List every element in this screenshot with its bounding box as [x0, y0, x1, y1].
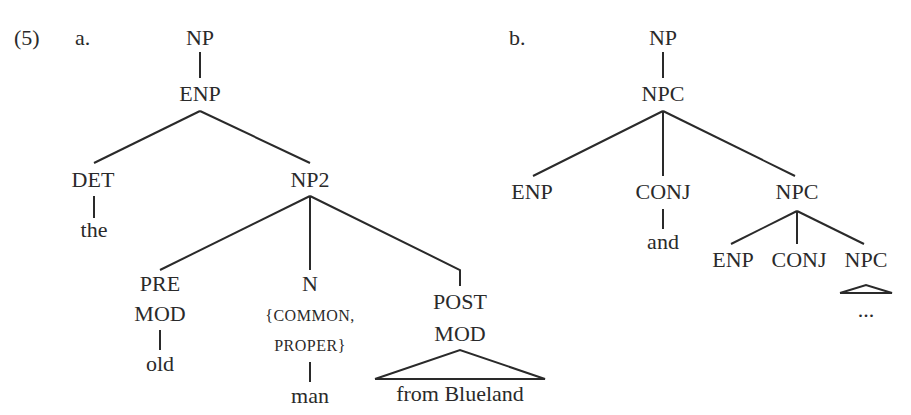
tree-branches: [0, 0, 911, 415]
node-a-premod-line1: PRE: [140, 273, 180, 295]
word-man: man: [291, 385, 329, 407]
branch-npc-enp: [533, 111, 663, 176]
branch-inner-enp: [731, 211, 797, 244]
triangle-inner-npc: [840, 285, 892, 293]
node-a-n-feature-line2: PROPER}: [274, 338, 346, 354]
branch-inner-npc: [797, 211, 864, 244]
node-a-np: NP: [186, 27, 214, 49]
node-a-det: DET: [72, 169, 115, 191]
branch-enp-np2: [200, 111, 310, 163]
node-a-n-feature-line1: {COMMON,: [265, 308, 354, 324]
node-a-n: N: [302, 273, 318, 295]
node-b-enp: ENP: [511, 181, 553, 203]
triangle-postmod: [375, 350, 545, 379]
node-b-conj: CONJ: [635, 181, 690, 203]
word-and: and: [647, 231, 679, 253]
branch-np2-premod: [160, 196, 310, 270]
node-b-conj-2: CONJ: [771, 249, 826, 271]
branch-npc-npc: [663, 111, 795, 176]
branch-np2-postmod: [310, 196, 460, 286]
node-a-enp: ENP: [179, 83, 221, 105]
node-a-postmod-line2: MOD: [434, 323, 485, 345]
syntax-tree-figure: (5) a. NP ENP DET NP2 the PRE MOD old N …: [0, 0, 911, 415]
node-b-np: NP: [649, 27, 677, 49]
node-b-npc-2: NPC: [845, 249, 888, 271]
subexample-b-label: b.: [509, 27, 526, 49]
phrase-from-blueland: from Blueland: [396, 383, 524, 405]
word-old: old: [146, 353, 174, 375]
branch-enp-det: [94, 111, 200, 163]
node-b-enp-2: ENP: [712, 249, 754, 271]
word-the: the: [81, 219, 108, 241]
subexample-a-label: a.: [75, 27, 90, 49]
node-b-npc: NPC: [642, 83, 685, 105]
node-b-npc-inner: NPC: [776, 181, 819, 203]
node-a-np2: NP2: [290, 169, 329, 191]
example-number: (5): [14, 27, 40, 49]
ellipsis: ...: [858, 299, 875, 321]
node-a-premod-line2: MOD: [134, 303, 185, 325]
node-a-postmod-line1: POST: [433, 291, 487, 313]
